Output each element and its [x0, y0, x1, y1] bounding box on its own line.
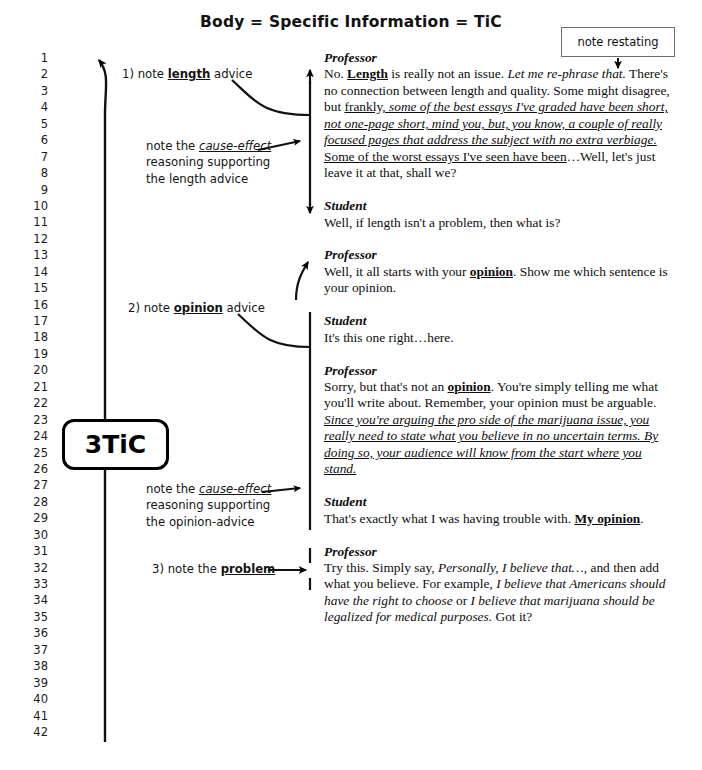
line-number: 29 — [18, 510, 48, 526]
dialogue-segment: Let me re-phrase that. — [507, 66, 626, 81]
line-number: 2 — [18, 66, 48, 82]
line-number: 18 — [18, 329, 48, 345]
line-number: 42 — [18, 724, 48, 740]
speaker-label: Professor — [324, 50, 676, 66]
paragraph-spacer — [324, 527, 676, 543]
dialogue-segment: Got it? — [492, 609, 532, 624]
annotation-problem: 3) note the problem — [152, 561, 275, 577]
dialogue-segment: Well, it all starts with your — [324, 264, 470, 279]
line-number: 32 — [18, 560, 48, 576]
line-number: 13 — [18, 247, 48, 263]
annotation-cause2-keyword: cause-effect — [199, 482, 271, 496]
line-number: 38 — [18, 658, 48, 674]
annotation-length-prefix: 1) note — [122, 67, 168, 81]
line-number: 39 — [18, 675, 48, 691]
dialogue-paragraph: Sorry, but that's not an opinion. You're… — [324, 379, 676, 478]
annotation-opinion-advice: 2) note opinion advice — [128, 300, 265, 316]
line-number-gutter: 1234567891011121314151617181920212223242… — [18, 50, 48, 740]
line-number: 7 — [18, 149, 48, 165]
dialogue-segment: Since you're arguing the pro side of the… — [324, 412, 658, 476]
dialogue-segment: Sorry, but that's not an — [324, 379, 448, 394]
line-number: 31 — [18, 543, 48, 559]
annotation-cause1-keyword: cause-effect — [199, 139, 271, 153]
dialogue-segment: or — [453, 593, 471, 608]
tic-badge: 3TiC — [62, 419, 169, 470]
line-number: 35 — [18, 609, 48, 625]
line-number: 9 — [18, 182, 48, 198]
leader-length-advice — [232, 80, 310, 115]
dialogue-paragraph: Well, if length isn't a problem, then wh… — [324, 215, 676, 231]
annotation-cause2-line2: reasoning supporting — [146, 497, 271, 513]
speaker-label: Professor — [324, 363, 676, 379]
line-number: 25 — [18, 445, 48, 461]
line-number: 24 — [18, 428, 48, 444]
paragraph-spacer — [324, 297, 676, 313]
dialogue-paragraph: Try this. Simply say, Personally, I beli… — [324, 560, 676, 626]
line-number: 8 — [18, 165, 48, 181]
line-number: 28 — [18, 494, 48, 510]
line-number: 17 — [18, 313, 48, 329]
line-number: 33 — [18, 576, 48, 592]
dialogue-paragraph: Well, it all starts with your opinion. S… — [324, 264, 676, 297]
annotation-cause1-prefix: note the — [146, 139, 199, 153]
paragraph-spacer — [324, 346, 676, 362]
dialogue-segment: is really not an issue. — [388, 66, 507, 81]
dialogue-segment: opinion — [470, 264, 513, 279]
line-number: 20 — [18, 362, 48, 378]
speaker-label: Student — [324, 494, 676, 510]
annotation-problem-keyword: problem — [221, 562, 276, 576]
speaker-label: Student — [324, 313, 676, 329]
line-number: 6 — [18, 132, 48, 148]
annotation-cause2-prefix: note the — [146, 482, 199, 496]
dialogue-column: ProfessorNo. Length is really not an iss… — [324, 50, 676, 626]
line-number: 23 — [18, 412, 48, 428]
line-number: 21 — [18, 379, 48, 395]
note-restating-label: note restating — [578, 35, 659, 49]
annotation-length-advice: 1) note length advice — [122, 66, 252, 82]
dialogue-segment: That's exactly what I was having trouble… — [324, 511, 574, 526]
line-number: 34 — [18, 592, 48, 608]
speaker-label: Professor — [324, 544, 676, 560]
line-number: 12 — [18, 231, 48, 247]
dialogue-paragraph: That's exactly what I was having trouble… — [324, 511, 676, 527]
speaker-label: Student — [324, 198, 676, 214]
line-number: 11 — [18, 214, 48, 230]
annotation-cause2-line1: note the cause-effect — [146, 481, 271, 497]
dialogue-segment: Personally, I believe that…, — [438, 560, 587, 575]
annotation-problem-prefix: 3) note the — [152, 562, 221, 576]
annotation-cause-effect-length: note the cause-effect reasoning supporti… — [146, 138, 271, 187]
spine-line-upper-arrow — [99, 60, 106, 419]
line-number: 4 — [18, 99, 48, 115]
line-number: 14 — [18, 264, 48, 280]
dialogue-segment: opinion — [448, 379, 491, 394]
dialogue-segment: Some of the worst essays I've seen have … — [324, 149, 567, 164]
dialogue-paragraph: It's this one right…here. — [324, 330, 676, 346]
worksheet-page: Body = Specific Information = TiC note r… — [0, 0, 702, 770]
dialogue-segment: frankly, — [344, 99, 389, 114]
line-number: 22 — [18, 395, 48, 411]
line-number: 15 — [18, 280, 48, 296]
annotation-cause1-line1: note the cause-effect — [146, 138, 271, 154]
annotation-opinion-suffix: advice — [223, 301, 265, 315]
speaker-label: Professor — [324, 247, 676, 263]
annotation-cause2-line3: the opinion-advice — [146, 514, 271, 530]
dialogue-segment: Length — [347, 66, 388, 81]
dialogue-segment: My opinion — [574, 511, 640, 526]
annotation-length-keyword: length — [168, 67, 211, 81]
dialogue-paragraph: No. Length is really not an issue. Let m… — [324, 66, 676, 181]
leader-opinion-advice — [238, 314, 310, 347]
line-number: 26 — [18, 461, 48, 477]
annotation-cause1-line3: the length advice — [146, 171, 271, 187]
paragraph-spacer — [324, 478, 676, 494]
annotation-opinion-prefix: 2) note — [128, 301, 174, 315]
line-number: 10 — [18, 198, 48, 214]
dialogue-segment: . — [640, 511, 643, 526]
line-number: 1 — [18, 50, 48, 66]
annotation-opinion-keyword: opinion — [174, 301, 223, 315]
line-number: 19 — [18, 346, 48, 362]
tic-badge-label: 3TiC — [85, 430, 146, 459]
dialogue-segment: It's this one right…here. — [324, 330, 454, 345]
line-number: 5 — [18, 116, 48, 132]
dialogue-segment: Try this. Simply say, — [324, 560, 438, 575]
line-number: 37 — [18, 642, 48, 658]
